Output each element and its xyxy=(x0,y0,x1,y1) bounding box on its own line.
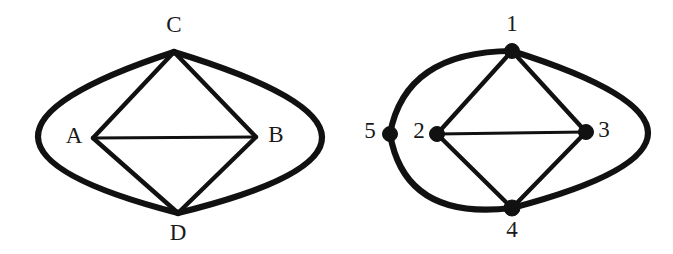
vertex-dot-2 xyxy=(430,127,445,142)
vertex-dot-3 xyxy=(579,125,594,140)
vertex-dot-4 xyxy=(504,200,520,216)
vertex-label-A: A xyxy=(66,123,83,148)
vertex-3: 3 xyxy=(579,117,610,142)
vertex-B: B xyxy=(268,122,283,147)
vertex-label-1: 1 xyxy=(506,11,518,36)
edge-C-D-left-curve xyxy=(38,52,178,213)
vertex-D: D xyxy=(170,220,187,245)
vertex-label-4: 4 xyxy=(506,217,518,242)
vertex-label-D: D xyxy=(170,220,187,245)
vertex-label-2: 2 xyxy=(413,118,425,143)
vertex-label-B: B xyxy=(268,122,283,147)
edge-A-B xyxy=(93,137,256,138)
vertex-A: A xyxy=(66,123,83,148)
figure-container: A B C D xyxy=(0,0,673,254)
vertex-label-5: 5 xyxy=(364,118,376,143)
edge-2-4 xyxy=(437,134,512,208)
vertex-C: C xyxy=(166,12,181,37)
left-graph: A B C D xyxy=(38,12,322,245)
edge-2-3 xyxy=(437,132,586,134)
vertex-label-C: C xyxy=(166,12,181,37)
vertex-label-3: 3 xyxy=(598,117,610,142)
graph-figure-canvas: A B C D xyxy=(0,0,673,254)
vertex-1: 1 xyxy=(505,11,520,58)
vertex-2: 2 xyxy=(413,118,444,143)
vertex-4: 4 xyxy=(504,200,520,242)
vertex-dot-5 xyxy=(383,127,398,142)
vertex-dot-1 xyxy=(505,44,520,59)
right-graph: 1 2 3 4 5 xyxy=(364,11,648,242)
